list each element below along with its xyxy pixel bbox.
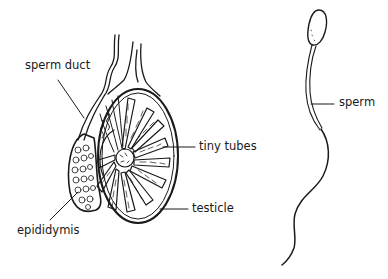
tiny-tubes (97, 98, 170, 212)
sperm-cell (282, 10, 328, 265)
epididymis (69, 134, 101, 211)
label-testicle: testicle (192, 203, 234, 215)
sperm-duct-cords (78, 35, 160, 140)
anatomy-illustration (0, 0, 388, 279)
sperm-tail (282, 129, 328, 265)
leader-sperm-duct (58, 80, 84, 118)
tiny-tubes-hub (116, 149, 134, 167)
label-epididymis: epididymis (17, 225, 80, 237)
label-tiny-tubes: tiny tubes (199, 141, 257, 153)
label-sperm-duct: sperm duct (25, 60, 90, 72)
sperm-head (308, 10, 327, 45)
leader-lines (50, 80, 334, 220)
diagram-canvas: sperm duct tiny tubes testicle epididymi… (0, 0, 388, 279)
label-sperm: sperm (339, 97, 375, 109)
leader-epididymis (50, 192, 78, 220)
